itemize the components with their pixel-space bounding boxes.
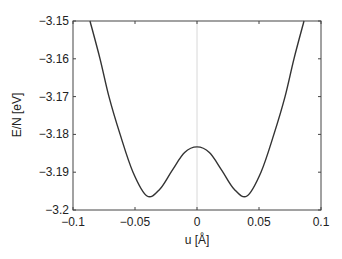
y-tick-label: −3.15 [39, 14, 70, 28]
y-axis-label: E/N [eV] [10, 93, 24, 138]
x-tick-label: −0.05 [120, 215, 151, 229]
x-tick-label: 0.05 [247, 215, 271, 229]
y-tick-label: −3.18 [39, 127, 70, 141]
x-tick-label: 0 [194, 215, 201, 229]
y-tick-label: −3.16 [39, 52, 70, 66]
x-tick-label: 0.1 [313, 215, 330, 229]
x-axis-label: u [Å] [185, 232, 210, 247]
y-tick-label: −3.2 [45, 203, 69, 217]
y-tick-label: −3.17 [39, 90, 70, 104]
y-tick-label: −3.19 [39, 165, 70, 179]
x-tick-label: −0.1 [61, 215, 85, 229]
x-axis-ticks: −0.1−0.0500.050.1 [61, 21, 330, 229]
chart: −0.1−0.0500.050.1 −3.15−3.16−3.17−3.18−3… [0, 0, 342, 259]
y-axis-ticks: −3.15−3.16−3.17−3.18−3.19−3.2 [39, 14, 321, 217]
